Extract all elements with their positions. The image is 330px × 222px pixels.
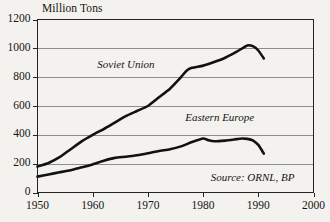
y-tick-label: 200: [0, 156, 31, 168]
x-tick-label: 1990: [232, 199, 284, 211]
y-axis-title: Million Tons: [42, 2, 103, 14]
source-note: Source: ORNL, BP: [211, 171, 295, 183]
series-label-soviet-union: Soviet Union: [97, 58, 154, 70]
x-tick-label: 1970: [122, 199, 174, 211]
y-tick-label: 0: [0, 185, 31, 197]
y-tick-label: 800: [0, 70, 31, 82]
x-tick-label: 1980: [177, 199, 229, 211]
coal-production-chart: Million Tons 020040060080010001200 19501…: [0, 0, 330, 222]
x-tick-label: 1960: [67, 199, 119, 211]
y-tick-label: 1000: [0, 41, 31, 53]
x-tick-label: 2000: [288, 199, 330, 211]
series-label-eastern-europe: Eastern Europe: [185, 111, 254, 123]
y-tick-label: 1200: [0, 12, 31, 24]
y-tick-label: 400: [0, 127, 31, 139]
x-tick-label: 1950: [12, 199, 64, 211]
y-tick-label: 600: [0, 99, 31, 111]
plot-area: [0, 0, 330, 222]
